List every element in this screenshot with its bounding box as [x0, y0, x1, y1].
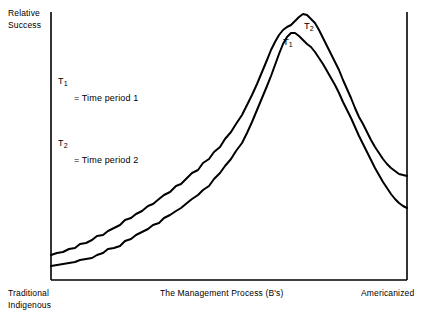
- curve-label-t1: T1: [283, 36, 293, 48]
- x-axis-label-center: The Management Process (B's): [160, 288, 283, 300]
- legend-text-t1: = Time period 1: [74, 93, 139, 103]
- curve-label-t2: T2: [304, 20, 314, 32]
- curve-label-t1-subscript: 1: [289, 41, 293, 48]
- curve-label-t2-subscript: 2: [310, 25, 314, 32]
- legend-item-t1: T1 = Time period 1: [58, 74, 138, 106]
- y-axis-title-line2: Success: [8, 20, 41, 30]
- legend-text-t2: = Time period 2: [74, 155, 139, 165]
- legend-item-t2: T2 = Time period 2: [58, 136, 138, 168]
- legend: T1 = Time period 1 T2 = Time period 2: [58, 44, 138, 198]
- legend-subscript-t2: 2: [64, 142, 68, 149]
- x-axis-label-left-line2: Indigenous: [8, 300, 51, 310]
- legend-subscript-t1: 1: [64, 80, 68, 87]
- chart-figure: RelativeSuccess T1 = Time period 1 T2 = …: [0, 0, 434, 317]
- x-axis-label-right: Americanized: [361, 288, 414, 300]
- y-axis-title-line1: Relative: [8, 8, 40, 18]
- y-axis-title: RelativeSuccess: [8, 8, 41, 31]
- x-axis-label-left-line1: Traditional: [8, 288, 49, 298]
- x-axis-label-left: TraditionalIndigenous: [8, 288, 51, 311]
